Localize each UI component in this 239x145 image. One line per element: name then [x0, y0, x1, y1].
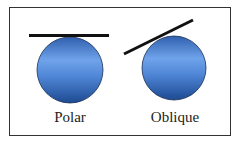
- polar-label: Polar: [54, 109, 86, 125]
- oblique-sphere: [142, 36, 206, 100]
- oblique-label: Oblique: [151, 109, 200, 125]
- projection-diagram: Polar Oblique: [0, 0, 239, 145]
- polar-sphere: [37, 37, 103, 103]
